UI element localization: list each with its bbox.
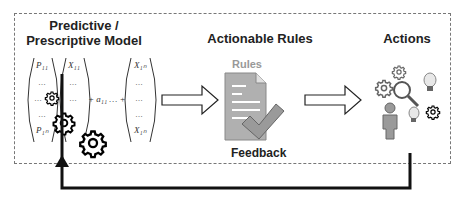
magnifier-icon <box>394 82 418 106</box>
bracket <box>125 58 131 142</box>
bracket <box>150 58 156 142</box>
diagram-graphics <box>0 0 465 202</box>
arrow-right-icon <box>305 86 361 114</box>
bracket <box>28 58 34 142</box>
gear-icon-small <box>45 92 58 105</box>
gear-icon-large <box>80 132 106 158</box>
person-icon <box>383 103 397 139</box>
lightbulb-icon <box>424 73 436 91</box>
bracket <box>84 58 90 142</box>
arrowhead-up-icon <box>55 155 69 167</box>
gear-icon-grey <box>392 66 405 79</box>
gear-icon-black <box>426 106 439 119</box>
lightbulb-icon <box>409 107 419 122</box>
gear-icon-medium <box>53 114 74 135</box>
arrow-right-icon <box>162 86 218 114</box>
gear-icon-grey <box>376 81 393 98</box>
